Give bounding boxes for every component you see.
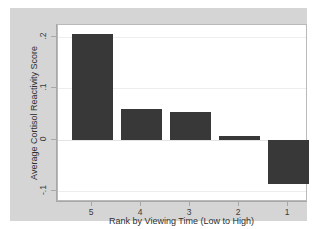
x-axis-title: Rank by Viewing Time (Low to High)	[56, 216, 307, 226]
y-tick-label-text-3: -.1	[38, 185, 48, 195]
gridline-neg0p1	[58, 191, 306, 192]
plot-inner	[58, 25, 306, 200]
bar-rank-5[interactable]	[72, 34, 113, 140]
x-axis-tick-mark-3	[238, 202, 239, 206]
x-axis-tick-mark-2	[189, 202, 190, 206]
x-axis-line	[56, 201, 307, 202]
x-axis-tick-mark-0	[91, 202, 92, 206]
plot-area	[57, 24, 307, 201]
y-axis-title: Average Cortisol Reactivity Score	[27, 24, 40, 202]
y-tick-label-text-1: .1	[38, 83, 48, 90]
y-tick-label-text-2: 0	[38, 137, 48, 142]
figure-background: Average Cortisol Reactivity Score .2 .1 …	[10, 8, 307, 221]
x-axis-tick-mark-1	[140, 202, 141, 206]
x-axis-tick-mark-4	[287, 202, 288, 206]
y-tick-label-2: 0	[37, 139, 49, 140]
chart-screenshot: Average Cortisol Reactivity Score .2 .1 …	[0, 0, 317, 229]
bar-rank-1[interactable]	[268, 140, 309, 184]
bar-rank-4[interactable]	[121, 109, 162, 140]
y-tick-label-text-0: .2	[38, 32, 48, 39]
y-tick-label-3: -.1	[37, 190, 49, 191]
bar-rank-3[interactable]	[170, 112, 211, 140]
y-tick-label-1: .1	[37, 87, 49, 88]
y-tick-label-0: .2	[37, 36, 49, 37]
y-axis-title-text: Average Cortisol Reactivity Score	[29, 46, 39, 180]
bar-rank-2[interactable]	[219, 136, 260, 140]
